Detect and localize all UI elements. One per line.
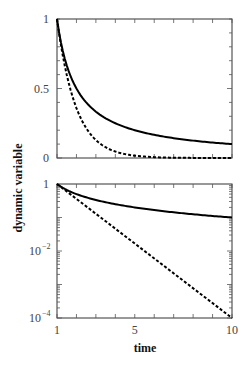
bottom-panel: 110−210−4 1510: [29, 177, 238, 337]
bottom-series: [57, 184, 232, 318]
x-tick-label: 5: [132, 323, 138, 337]
x-axis-label: time: [134, 341, 157, 355]
y-tick-label: 0: [43, 151, 49, 165]
bottom-y-tick-labels: 110−210−4: [29, 177, 51, 325]
x-tick-label: 10: [226, 323, 238, 337]
top-panel: 00.51: [34, 12, 232, 165]
top-ticks: [57, 19, 232, 158]
series-line-dashed: [57, 184, 232, 318]
y-tick-label: 1: [43, 177, 49, 191]
y-tick-exponent: −4: [42, 309, 51, 318]
y-tick-exponent: −2: [42, 242, 51, 251]
series-line-dashed: [57, 19, 232, 158]
figure: 00.51 110−210−4 1510 dynamic variable ti…: [0, 0, 250, 365]
series-line-solid: [57, 184, 232, 218]
y-tick-label: 10: [29, 311, 41, 325]
bottom-x-tick-labels: 1510: [54, 323, 238, 337]
y-tick-label: 0.5: [34, 82, 49, 96]
y-tick-label: 10: [29, 244, 41, 258]
series-line-solid: [57, 19, 232, 144]
y-axis-label: dynamic variable: [11, 143, 25, 233]
top-plot-frame: [57, 19, 232, 158]
top-series: [57, 19, 232, 158]
top-y-tick-labels: 00.51: [34, 12, 49, 165]
x-tick-label: 1: [54, 323, 60, 337]
y-tick-label: 1: [43, 12, 49, 26]
